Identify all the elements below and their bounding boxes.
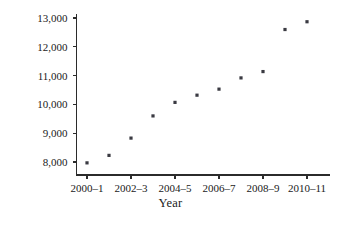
- x-axis-tick-label: 2006–7: [203, 182, 237, 194]
- plot-area: 13,00012,00011,00010,0009,0008,000 2000–…: [0, 0, 341, 226]
- y-axis-tick-labels: 13,00012,00011,00010,0009,0008,000: [37, 12, 68, 168]
- data-point: 2010–11: 12,870: [305, 20, 308, 23]
- data-point-series: 2000–1: 7,9702001–2: 8,2302002–3: 8,8302…: [85, 20, 308, 164]
- x-axis-tick-marks: [87, 175, 307, 179]
- data-point: 2005–6: 10,320: [195, 94, 198, 97]
- data-point: 2004–5: 10,070: [173, 101, 176, 104]
- y-axis-tick-marks: [73, 18, 77, 162]
- y-axis-tick-label: 10,000: [37, 98, 68, 110]
- x-axis-tick-label: 2004–5: [159, 182, 193, 194]
- y-axis-tick-label: 11,000: [38, 70, 68, 82]
- data-point: 2003–4: 9,600: [151, 114, 154, 117]
- scatter-chart-figure: Dollars 13,00012,00011,00010,0009,0008,0…: [0, 0, 341, 226]
- data-point: 2009–10: 12,600: [283, 28, 286, 31]
- y-axis-tick-label: 12,000: [37, 41, 68, 53]
- data-point: 2008–9: 11,140: [261, 70, 264, 73]
- x-axis-tick-label: 2002–3: [115, 182, 149, 194]
- data-point: 2002–3: 8,830: [129, 137, 132, 140]
- data-point: 2007–8: 10,920: [239, 76, 242, 79]
- x-axis-tick-label: 2008–9: [247, 182, 281, 194]
- x-axis-title: Year: [0, 196, 341, 211]
- x-axis-tick-label: 2000–1: [71, 182, 104, 194]
- axis-lines: [77, 14, 331, 175]
- x-axis-tick-labels: 2000–12002–32004–52006–72008–92010–11: [71, 182, 327, 194]
- data-point: 2001–2: 8,230: [107, 154, 110, 157]
- x-axis-tick-label: 2010–11: [288, 182, 326, 194]
- y-axis-tick-label: 13,000: [37, 12, 68, 24]
- y-axis-tick-label: 8,000: [43, 156, 68, 168]
- data-point: 2006–7: 10,530: [217, 88, 220, 91]
- data-point: 2000–1: 7,970: [85, 161, 88, 164]
- y-axis-tick-label: 9,000: [43, 127, 68, 139]
